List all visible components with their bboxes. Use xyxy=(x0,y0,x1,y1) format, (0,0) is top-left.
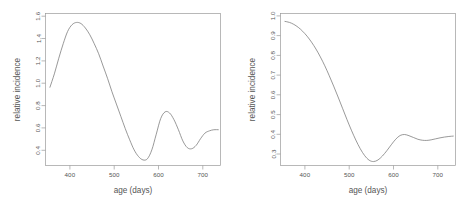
left-x-tick-label: 700 xyxy=(197,171,208,178)
left-x-tick-label: 500 xyxy=(109,171,120,178)
left-y-tick-label: 1.2 xyxy=(35,56,42,65)
left-y-tick-label: 0.4 xyxy=(35,145,42,154)
left-y-tick-label: 1.4 xyxy=(35,34,42,43)
left-plot-box xyxy=(46,14,221,166)
right-y-tick-label: 0.7 xyxy=(269,70,276,79)
left-y-tick-label: 0.8 xyxy=(35,101,42,110)
right-x-tick-label: 400 xyxy=(299,171,310,178)
right-plot-svg: 1.0 0.9 0.8 0.7 0.6 0.5 0.4 0.3 relative… xyxy=(235,0,469,203)
right-y-tick-label: 0.4 xyxy=(269,129,276,138)
left-y-tick-labels: 1.6 1.4 1.2 1.0 0.8 0.6 0.4 xyxy=(35,11,42,154)
right-y-axis-ticks xyxy=(276,16,280,154)
right-y-axis-title: relative incidence xyxy=(247,57,256,121)
left-x-tick-label: 400 xyxy=(65,171,76,178)
left-y-tick-label: 0.6 xyxy=(35,123,42,132)
right-y-tick-label: 0.8 xyxy=(269,50,276,59)
left-y-tick-label: 1.0 xyxy=(35,78,42,87)
left-y-axis-ticks xyxy=(42,16,46,150)
left-x-tick-label: 600 xyxy=(153,171,164,178)
right-y-tick-labels: 1.0 0.9 0.8 0.7 0.6 0.5 0.4 0.3 xyxy=(269,11,276,158)
left-x-axis-ticks xyxy=(70,166,203,170)
left-y-tick-label: 1.6 xyxy=(35,11,42,20)
right-incidence-curve xyxy=(284,21,452,161)
right-x-tick-label: 600 xyxy=(388,171,399,178)
figure-two-panel-line-charts: 1.6 1.4 1.2 1.0 0.8 0.6 0.4 relative inc… xyxy=(0,0,469,203)
chart-panel-right: 1.0 0.9 0.8 0.7 0.6 0.5 0.4 0.3 relative… xyxy=(235,0,469,203)
right-y-tick-label: 1.0 xyxy=(269,11,276,20)
right-x-axis-ticks xyxy=(304,166,437,170)
right-x-tick-labels: 400 500 600 700 xyxy=(299,171,443,178)
right-x-axis-title: age (days) xyxy=(348,186,387,195)
right-x-tick-label: 500 xyxy=(343,171,354,178)
right-y-tick-label: 0.9 xyxy=(269,31,276,40)
right-y-tick-label: 0.6 xyxy=(269,90,276,99)
left-y-axis-title: relative incidence xyxy=(13,57,22,121)
left-x-tick-labels: 400 500 600 700 xyxy=(65,171,209,178)
left-plot-svg: 1.6 1.4 1.2 1.0 0.8 0.6 0.4 relative inc… xyxy=(0,0,235,203)
left-incidence-curve xyxy=(50,22,218,160)
chart-panel-left: 1.6 1.4 1.2 1.0 0.8 0.6 0.4 relative inc… xyxy=(0,0,235,203)
right-y-tick-label: 0.3 xyxy=(269,149,276,158)
right-x-tick-label: 700 xyxy=(432,171,443,178)
left-x-axis-title: age (days) xyxy=(114,186,153,195)
right-y-tick-label: 0.5 xyxy=(269,110,276,119)
